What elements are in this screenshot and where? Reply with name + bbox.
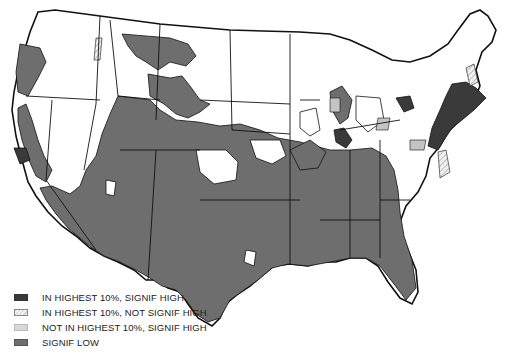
map-legend: IN HIGHEST 10%, SIGNIF HIGH IN HIGHEST 1… (14, 290, 207, 350)
light-swatch-icon (14, 324, 28, 331)
legend-label: IN HIGHEST 10%, NOT SIGNIF HIGH (42, 307, 207, 318)
legend-item-not-highest-signif-high: NOT IN HIGHEST 10%, SIGNIF HIGH (14, 320, 207, 335)
legend-item-highest-signif-high: IN HIGHEST 10%, SIGNIF HIGH (14, 290, 207, 305)
legend-label: IN HIGHEST 10%, SIGNIF HIGH (42, 292, 184, 303)
hatched-swatch-icon (14, 309, 28, 316)
legend-item-signif-low: SIGNIF LOW (14, 335, 207, 350)
dark-swatch-icon (14, 294, 28, 301)
legend-label: NOT IN HIGHEST 10%, SIGNIF HIGH (42, 322, 207, 333)
legend-item-highest-not-signif-high: IN HIGHEST 10%, NOT SIGNIF HIGH (14, 305, 207, 320)
legend-label: SIGNIF LOW (42, 337, 99, 348)
medium-swatch-icon (14, 339, 28, 346)
